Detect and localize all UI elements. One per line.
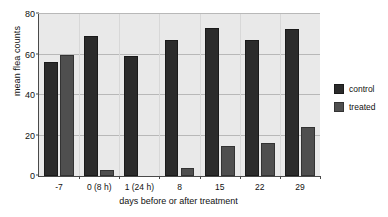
x-axis-tick-mark bbox=[200, 176, 201, 179]
gridline-x bbox=[119, 14, 120, 176]
gridline-x bbox=[280, 14, 281, 176]
x-axis-tick-label: 22 bbox=[255, 182, 264, 192]
y-axis-tick-label: 60 bbox=[25, 50, 35, 60]
gridline-y bbox=[39, 94, 320, 95]
x-axis-tick-label: -7 bbox=[55, 182, 63, 192]
x-axis-tick-mark bbox=[320, 176, 321, 179]
bar-control-1-24-h- bbox=[124, 56, 138, 176]
bar-control-29 bbox=[285, 29, 299, 176]
x-axis-tick-mark bbox=[280, 176, 281, 179]
bar-treated--7 bbox=[60, 55, 74, 177]
flea-count-bar-chart: mean flea counts 020406080-70 (8 h)1 (24… bbox=[0, 0, 388, 217]
bar-treated-0-8-h- bbox=[100, 170, 114, 176]
y-axis-tick-label: 80 bbox=[25, 9, 35, 19]
bar-control-15 bbox=[205, 28, 219, 176]
x-axis-tick-label: 0 (8 h) bbox=[87, 182, 112, 192]
x-axis-tick-label: 1 (24 h) bbox=[125, 182, 154, 192]
legend-item-treated: treated bbox=[334, 102, 388, 112]
chart-legend: control treated bbox=[334, 84, 388, 120]
y-axis-tick-mark bbox=[36, 94, 39, 95]
legend-swatch-control-icon bbox=[334, 84, 344, 94]
y-axis-tick-label: 40 bbox=[25, 90, 35, 100]
x-axis-tick-mark bbox=[240, 176, 241, 179]
x-axis-tick-mark bbox=[79, 176, 80, 179]
gridline-x bbox=[200, 14, 201, 176]
y-axis-tick-mark bbox=[36, 13, 39, 14]
y-axis-tick-mark bbox=[36, 175, 39, 176]
x-axis-tick-mark bbox=[159, 176, 160, 179]
bar-control-0-8-h- bbox=[84, 36, 98, 176]
gridline-y bbox=[39, 135, 320, 136]
bar-control-8 bbox=[165, 40, 179, 176]
x-axis-tick-label: 15 bbox=[215, 182, 224, 192]
y-axis-tick-mark bbox=[36, 53, 39, 54]
gridline-y bbox=[39, 13, 320, 14]
plot-area: 020406080-70 (8 h)1 (24 h)8152229 bbox=[38, 14, 320, 177]
legend-item-control: control bbox=[334, 84, 388, 94]
legend-label-treated: treated bbox=[349, 102, 375, 112]
y-axis-tick-mark bbox=[36, 134, 39, 135]
x-axis-tick-label: 29 bbox=[295, 182, 304, 192]
bar-control-22 bbox=[245, 40, 259, 176]
bar-treated-29 bbox=[301, 127, 315, 176]
gridline-y bbox=[39, 54, 320, 55]
x-axis-tick-mark bbox=[119, 176, 120, 179]
y-axis-tick-label: 20 bbox=[25, 131, 35, 141]
gridline-x bbox=[159, 14, 160, 176]
x-axis-tick-label: 8 bbox=[177, 182, 182, 192]
y-axis-tick-label: 0 bbox=[30, 171, 35, 181]
gridline-x bbox=[79, 14, 80, 176]
bar-treated-15 bbox=[221, 146, 235, 176]
bar-treated-8 bbox=[181, 168, 195, 176]
gridline-x bbox=[240, 14, 241, 176]
legend-swatch-treated-icon bbox=[334, 102, 344, 112]
y-axis-title: mean flea counts bbox=[12, 0, 22, 126]
x-axis-title: days before or after treatment bbox=[38, 196, 319, 206]
legend-label-control: control bbox=[349, 84, 375, 94]
bar-treated-22 bbox=[261, 143, 275, 176]
bar-control--7 bbox=[44, 62, 58, 176]
